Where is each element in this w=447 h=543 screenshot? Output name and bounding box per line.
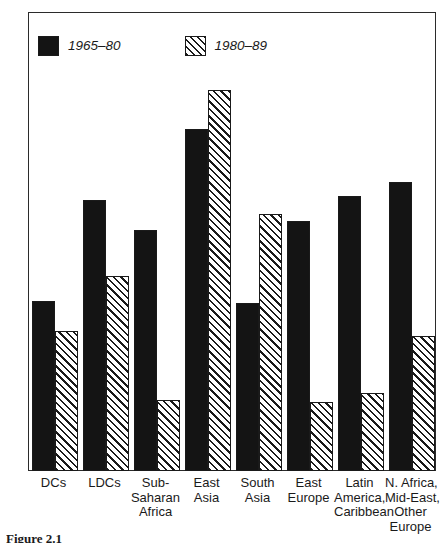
x-axis-label: DCs <box>28 476 79 491</box>
bar-series1 <box>83 200 106 471</box>
x-axis-label: SouthAsia <box>232 476 283 505</box>
bar-group <box>387 12 438 471</box>
x-axis-label-line: DCs <box>28 476 79 491</box>
bar-series2 <box>361 393 384 471</box>
x-axis-label: EastAsia <box>181 476 232 505</box>
x-axis-label-line: East <box>283 476 334 491</box>
x-axis-label-line: Europe <box>283 491 334 506</box>
x-axis-label-line: N. Africa, <box>385 476 436 491</box>
bar-series2 <box>412 336 435 471</box>
bar-series1 <box>287 221 310 471</box>
x-axis-label-line: America, <box>334 491 385 506</box>
x-axis-label: Sub-SaharanAfrica <box>130 476 181 520</box>
x-axis-category-labels: DCsLDCsSub-SaharanAfricaEastAsiaSouthAsi… <box>28 476 436 538</box>
bar-group <box>132 12 183 471</box>
x-axis-label: N. Africa,Mid-East,OtherEurope <box>385 476 436 534</box>
x-axis-label-line: Mid-East, <box>385 491 436 506</box>
x-axis-label-line: Europe <box>385 520 436 535</box>
bar-series2 <box>157 400 180 471</box>
bar-series1 <box>389 182 412 471</box>
x-axis-label-line: South <box>232 476 283 491</box>
bar-series2 <box>259 214 282 471</box>
bar-group <box>183 12 234 471</box>
bar-series2 <box>55 331 78 471</box>
bar-group <box>285 12 336 471</box>
x-axis-label-line: Latin <box>334 476 385 491</box>
bar-series1 <box>338 196 361 471</box>
x-axis-label-line: East <box>181 476 232 491</box>
bar-series1 <box>185 129 208 471</box>
bar-group <box>81 12 132 471</box>
bars-layer <box>28 12 436 471</box>
x-axis-label: EastEurope <box>283 476 334 505</box>
y-axis: 0246810 <box>0 0 28 543</box>
x-axis-label-line: Asia <box>181 491 232 506</box>
x-axis-label-line: Asia <box>232 491 283 506</box>
bar-group <box>30 12 81 471</box>
bar-chart-figure: 0246810 1965–80 1980–89 DCsLDCsSub-Sahar… <box>0 0 447 543</box>
x-axis-label: LDCs <box>79 476 130 491</box>
bar-series1 <box>134 230 157 471</box>
bar-series2 <box>310 402 333 471</box>
x-axis-label-line: Other <box>385 505 436 520</box>
x-axis-label-line: Sub- <box>130 476 181 491</box>
bar-group <box>336 12 387 471</box>
x-axis-label-line: LDCs <box>79 476 130 491</box>
bar-group <box>234 12 285 471</box>
bar-series2 <box>208 90 231 471</box>
bar-series1 <box>32 301 55 471</box>
x-axis-label: LatinAmerica,Caribbean <box>334 476 385 520</box>
x-axis-label-line: Saharan <box>130 491 181 506</box>
figure-caption: Figure 2.1 <box>6 531 62 543</box>
x-axis-label-line: Caribbean <box>334 505 385 520</box>
bar-series2 <box>106 276 129 471</box>
bar-series1 <box>236 303 259 471</box>
x-axis-label-line: Africa <box>130 505 181 520</box>
